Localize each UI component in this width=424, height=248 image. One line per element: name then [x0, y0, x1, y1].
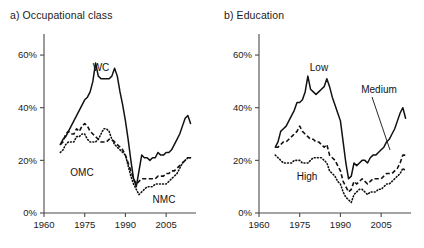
panel-b-y-tick-labels: 0%20%40%60%: [233, 49, 253, 218]
x-tick-label: 1960: [33, 219, 54, 230]
panel-education: b) Education 0%20%40%60% 196019751990200…: [212, 0, 424, 248]
y-tick-label: 60%: [233, 49, 253, 60]
panel-a-y-tick-labels: 0%20%40%60%: [18, 49, 38, 218]
x-tick-label: 1990: [115, 219, 136, 230]
x-tick-label: 1990: [330, 219, 351, 230]
series-label-nmc: NMC: [153, 194, 176, 205]
x-tick-label: 2005: [371, 219, 392, 230]
series-label-low: Low: [310, 62, 329, 73]
medium-leader-line: [372, 97, 390, 150]
figure-container: a) Occupational class 0%20%40%60% 196019…: [0, 0, 424, 248]
y-tick-label: 0%: [238, 207, 252, 218]
y-tick-label: 0%: [23, 207, 37, 218]
y-tick-label: 40%: [18, 102, 38, 113]
y-tick-label: 60%: [18, 49, 38, 60]
panel-b-axes: [255, 34, 411, 217]
series-label-omc: OMC: [70, 167, 93, 178]
y-tick-label: 20%: [18, 155, 38, 166]
series-line-medium: [275, 126, 405, 192]
panel-a-axes: [40, 34, 196, 217]
panel-occupational-class: a) Occupational class 0%20%40%60% 196019…: [0, 0, 212, 248]
series-label-high: High: [297, 171, 318, 182]
series-label-medium: Medium: [361, 84, 397, 95]
x-tick-label: 1975: [289, 219, 310, 230]
panel-b-x-tick-labels: 1960197519902005: [248, 219, 391, 230]
panel-a-plot: 0%20%40%60% 1960197519902005 WC OMC NMC: [0, 0, 212, 248]
panel-b-plot: 0%20%40%60% 1960197519902005 Low Medium …: [212, 0, 424, 248]
x-tick-label: 2005: [156, 219, 177, 230]
series-line-nmc: [60, 129, 190, 195]
series-label-wc: WC: [93, 62, 110, 73]
x-tick-label: 1960: [248, 219, 269, 230]
y-tick-label: 20%: [233, 155, 253, 166]
series-line-high: [275, 155, 405, 202]
x-tick-label: 1975: [74, 219, 95, 230]
y-tick-label: 40%: [233, 102, 253, 113]
panel-a-x-tick-labels: 1960197519902005: [33, 219, 176, 230]
